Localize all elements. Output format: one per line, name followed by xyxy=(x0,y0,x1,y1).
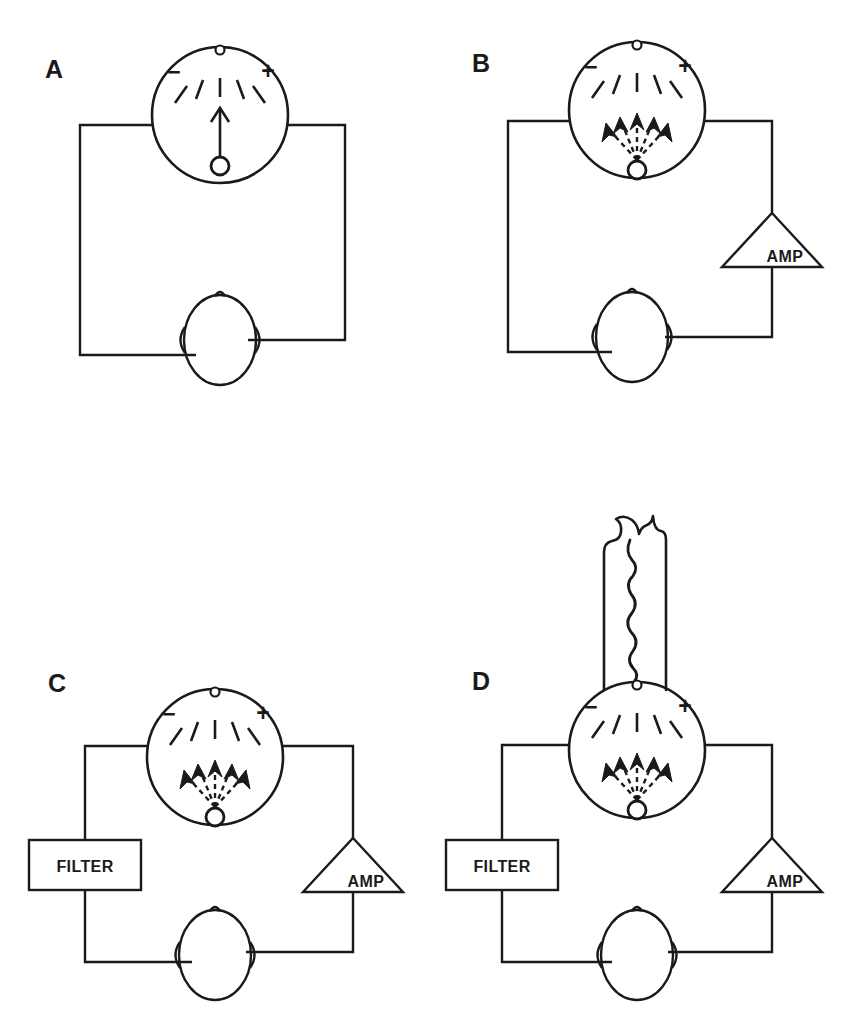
needle-pivot-a xyxy=(211,157,229,175)
dial-top-dot-icon-b xyxy=(633,41,642,50)
filter-d: FILTER xyxy=(446,840,558,890)
panel-label-b: B xyxy=(472,49,490,77)
panel-label-a: A xyxy=(45,55,63,83)
dial-plus-sign-a: + xyxy=(261,58,274,84)
needle-pivot-c xyxy=(206,808,224,826)
dial-plus-sign-d: + xyxy=(678,693,691,719)
dial-minus-sign-b: − xyxy=(584,54,597,80)
dial-top-dot-icon-d xyxy=(633,681,642,690)
panel-label-c: C xyxy=(48,669,66,697)
needle-pivot-d xyxy=(628,801,646,819)
needle-pivot-b xyxy=(628,161,646,179)
filter-label-d: FILTER xyxy=(473,858,530,875)
dial-top-dot-icon-c xyxy=(211,688,220,697)
dial-minus-sign-c: − xyxy=(162,701,175,727)
panel-label-d: D xyxy=(472,667,490,695)
dial-plus-sign-b: + xyxy=(678,53,691,79)
amp-label-d: AMP xyxy=(767,873,804,890)
dial-minus-sign-a: − xyxy=(167,59,180,85)
dial-top-dot-icon-a xyxy=(216,46,225,55)
filter-c: FILTER xyxy=(29,840,141,890)
chart-strip-d xyxy=(604,516,666,690)
amp-label-c: AMP xyxy=(348,873,385,890)
dial-minus-sign-d: − xyxy=(584,694,597,720)
dial-plus-sign-c: + xyxy=(256,700,269,726)
figure-container: A − + xyxy=(0,0,845,1036)
circuit-diagram-svg: A − + xyxy=(0,0,845,1036)
filter-label-c: FILTER xyxy=(56,858,113,875)
amp-label-b: AMP xyxy=(767,248,804,265)
